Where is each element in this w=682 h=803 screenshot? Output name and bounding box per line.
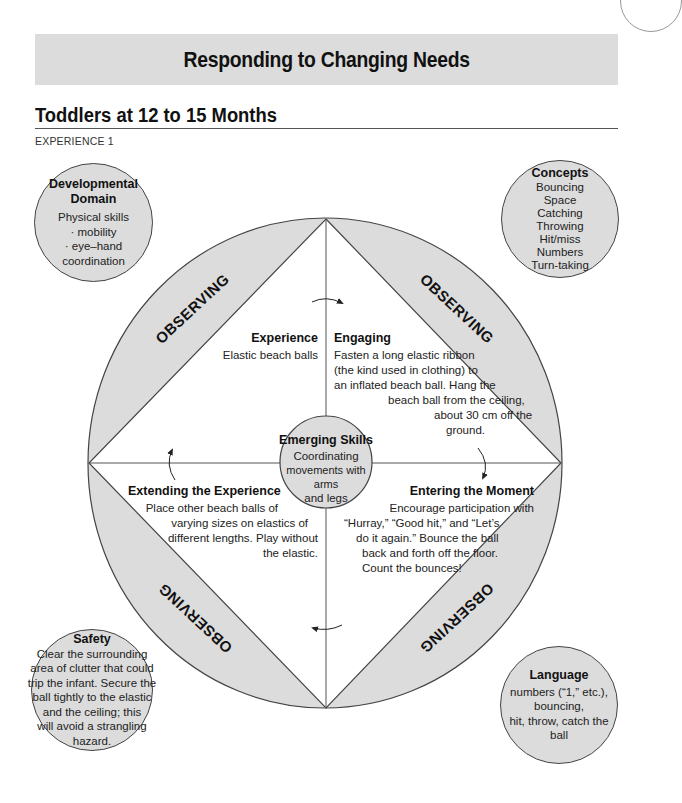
emerging-skills-line: and legs <box>276 491 376 505</box>
emerging-skills-line: Coordinating <box>276 449 376 463</box>
bubble-line: Catching <box>537 207 582 220</box>
bubble-title: Concepts <box>532 166 589 181</box>
bubble-line: ball <box>550 728 568 743</box>
experience-body: Elastic beach balls <box>223 349 318 361</box>
bubble-line: area of clutter that could <box>30 661 153 676</box>
bubble-line: Numbers <box>537 246 584 259</box>
safety-bubble: Safety Clear the surrounding area of clu… <box>31 629 153 751</box>
extending-line: different lengths. Play without <box>126 531 318 546</box>
bubble-line: Bouncing <box>536 181 584 194</box>
bubble-line: will avoid a strangling <box>37 719 146 734</box>
engaging-line: (the kind used in clothing) to <box>334 363 534 378</box>
language-bubble: Language numbers (“1,” etc.), bouncing, … <box>500 646 618 764</box>
bubble-line: trip the infant. Secure the <box>28 676 157 691</box>
engaging-title: Engaging <box>334 331 534 346</box>
bubble-line: coordination <box>62 254 125 269</box>
bubble-line: · mobility <box>70 225 116 240</box>
bubble-line: hazard. <box>73 734 111 749</box>
entering-line: do it again.” Bounce the ball <box>334 531 534 546</box>
bubble-title: Safety <box>73 632 111 647</box>
emerging-skills-line: movements with arms <box>276 463 376 491</box>
bubble-line: Physical skills <box>58 210 129 225</box>
quadrant-experience: Experience Elastic beach balls <box>200 331 318 363</box>
entering-line: back and forth off the floor. <box>334 546 534 561</box>
bubble-title: Language <box>529 668 588 683</box>
engaging-line: about 30 cm off the <box>334 408 534 423</box>
extending-line: the elastic. <box>126 546 318 561</box>
emerging-skills: Emerging Skills Coordinating movements w… <box>276 433 376 505</box>
quadrant-engaging: Engaging Fasten a long elastic ribbon (t… <box>334 331 534 438</box>
entering-line: “Hurray,” “Good hit,” and “Let’s <box>334 516 534 531</box>
engaging-line: an inflated beach ball. Hang the <box>334 378 534 393</box>
bubble-line: · eye–hand <box>65 239 123 254</box>
concepts-bubble: Concepts Bouncing Space Catching Throwin… <box>501 160 619 278</box>
bubble-line: and the ceiling; this <box>43 705 141 720</box>
entering-line: Count the bounces! <box>334 561 534 576</box>
bubble-line: numbers (“1,” etc.), <box>510 685 608 700</box>
bubble-line: Turn-taking <box>531 259 589 272</box>
bubble-line: ball tightly to the elastic <box>33 690 152 705</box>
engaging-line: Fasten a long elastic ribbon <box>334 348 534 363</box>
bubble-line: Hit/miss <box>540 233 581 246</box>
developmental-domain-bubble: Developmental Domain Physical skills · m… <box>34 163 153 282</box>
bubble-line: bouncing, <box>534 699 584 714</box>
bubble-line: Throwing <box>536 220 583 233</box>
bubble-line: Space <box>544 194 577 207</box>
bubble-title: Domain <box>71 192 117 207</box>
experience-title: Experience <box>200 331 318 346</box>
bubble-line: Clear the surrounding <box>37 647 148 662</box>
engaging-line: beach ball from the ceiling, <box>334 393 534 408</box>
bubble-title: Developmental <box>49 177 138 192</box>
emerging-skills-title: Emerging Skills <box>276 433 376 447</box>
extending-line: varying sizes on elastics of <box>126 516 318 531</box>
bubble-line: hit, throw, catch the <box>509 714 608 729</box>
